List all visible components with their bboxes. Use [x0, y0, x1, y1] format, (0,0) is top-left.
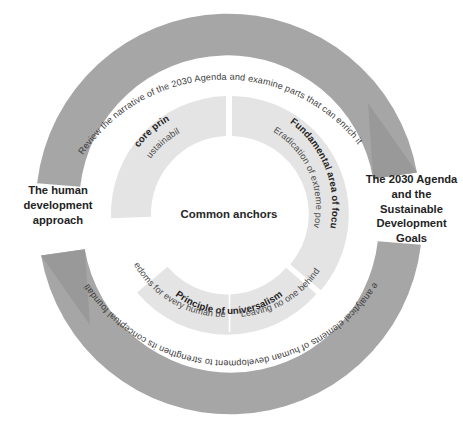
top-arrow-band	[37, 14, 417, 187]
top-arrow-body	[37, 14, 417, 187]
inner-segment-core-principle[interactable]	[111, 96, 226, 218]
left-side-label: The human development approach	[6, 183, 110, 227]
center-label: Common anchors	[181, 208, 278, 220]
diagram-root: Review the narrative of the 2030 Agenda …	[0, 0, 463, 428]
right-side-label: The 2030 Agenda and the Sustainable Deve…	[362, 172, 461, 246]
